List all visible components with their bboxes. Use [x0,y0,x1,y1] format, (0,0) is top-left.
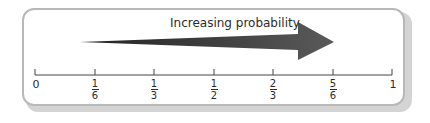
diagram-title: Increasing probability [170,16,300,30]
denominator: 6 [330,90,336,101]
denominator: 2 [211,90,217,101]
axis-label-1-2: 1 2 [204,78,224,101]
axis-label-5-6: 5 6 [323,78,343,101]
numerator: 2 [270,78,276,89]
number-line [35,69,392,75]
numerator: 1 [92,78,98,89]
axis-label-2-3: 2 3 [263,78,283,101]
denominator: 3 [270,90,276,101]
axis-label-1-3: 1 3 [144,78,164,101]
axis-label-1-6: 1 6 [85,78,105,101]
numerator: 5 [330,78,336,89]
axis-label-0: 0 [26,78,46,91]
denominator: 3 [151,90,157,101]
numerator: 1 [211,78,217,89]
axis-label-1: 1 [383,78,403,91]
denominator: 6 [92,90,98,101]
numerator: 1 [151,78,157,89]
